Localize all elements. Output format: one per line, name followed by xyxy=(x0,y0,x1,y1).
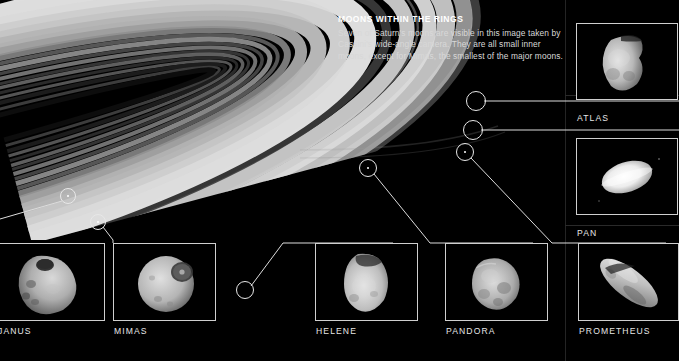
inset-panel-mimas[interactable] xyxy=(113,243,216,321)
caption-block: MOONS WITHIN THE RINGS Seven of Saturn's… xyxy=(338,14,564,62)
moon-image-pan xyxy=(577,139,678,215)
moon-image-atlas xyxy=(577,24,678,100)
marker-mimas[interactable] xyxy=(90,214,106,230)
inset-panel-pandora[interactable] xyxy=(445,243,548,321)
panel-label-pandora: PANDORA xyxy=(446,326,496,336)
inset-panel-pan[interactable] xyxy=(576,138,678,215)
panel-label-atlas: ATLAS xyxy=(577,113,609,123)
marker-dot-mimas xyxy=(97,221,99,223)
marker-helene[interactable] xyxy=(236,281,254,299)
marker-janus[interactable] xyxy=(60,188,76,204)
moons-within-the-rings-figure: MOONS WITHIN THE RINGS Seven of Saturn's… xyxy=(0,0,679,361)
panel-label-helene: HELENE xyxy=(316,326,357,336)
marker-dot-pandora xyxy=(367,167,369,169)
caption-body: Seven of Saturn's moons are visible in t… xyxy=(338,28,564,62)
marker-dot-janus xyxy=(67,195,69,197)
panel-label-mimas: MIMAS xyxy=(114,326,148,336)
marker-dot-prometheus xyxy=(464,151,466,153)
panel-label-prometheus: PROMETHEUS xyxy=(579,326,651,336)
inset-panel-helene[interactable] xyxy=(315,243,418,321)
panel-label-pan: PAN xyxy=(577,228,597,238)
caption-headline: MOONS WITHIN THE RINGS xyxy=(338,14,564,25)
moon-image-pandora xyxy=(446,244,548,321)
marker-pandora[interactable] xyxy=(359,159,377,177)
right-column-separator-mid xyxy=(565,225,679,226)
moon-image-mimas xyxy=(114,244,216,321)
moon-image-helene xyxy=(316,244,418,321)
inset-panel-atlas[interactable] xyxy=(576,23,678,100)
moon-image-prometheus xyxy=(579,244,679,321)
inset-panel-janus[interactable] xyxy=(0,243,105,321)
moon-image-janus xyxy=(0,244,105,321)
marker-prometheus[interactable] xyxy=(456,143,474,161)
right-column-divider xyxy=(565,0,566,361)
inset-panel-prometheus[interactable] xyxy=(578,243,679,321)
marker-pan[interactable] xyxy=(463,120,483,140)
panel-label-janus: JANUS xyxy=(0,326,32,336)
marker-atlas[interactable] xyxy=(466,91,486,111)
